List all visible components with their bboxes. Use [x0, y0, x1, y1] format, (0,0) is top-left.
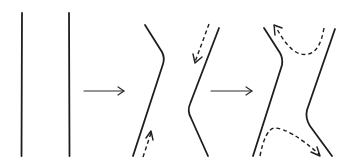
dashed-arrow-down-right-icon: [260, 128, 320, 156]
dashed-arrow-down-icon: [193, 24, 209, 63]
right-arrow-icon: [211, 87, 252, 95]
stage-3-left-line: [253, 28, 282, 156]
diagram: [0, 0, 348, 161]
stage-3: [253, 25, 335, 156]
dashed-arrow-up-icon: [143, 131, 153, 157]
stage-1-right-line: [69, 13, 70, 156]
stage-2: [133, 24, 219, 157]
stage-1: [22, 13, 70, 156]
stage-3-right-line: [306, 29, 335, 156]
stage-2-right-line: [189, 28, 219, 156]
dashed-arrow-up-left-icon: [274, 25, 324, 54]
stage-2-left-line: [133, 25, 164, 156]
right-arrow-icon: [84, 87, 124, 95]
stage-1-left-line: [22, 13, 23, 156]
